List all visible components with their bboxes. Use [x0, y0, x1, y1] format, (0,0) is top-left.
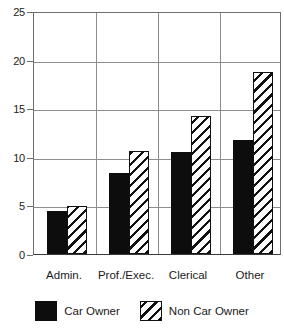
y-tick-label-5: 5	[19, 201, 25, 212]
y-axis: 25 20 15 10 5 0	[0, 0, 33, 333]
legend-label-non-car-owner: Non Car Owner	[169, 304, 249, 318]
bar-other-car-owner	[233, 140, 253, 254]
bar-chart-figure: 25 20 15 10 5 0	[0, 0, 284, 333]
x-tick-label-admin: Admin.	[46, 268, 82, 282]
legend-label-car-owner: Car Owner	[64, 304, 120, 318]
y-tick-label-15: 15	[13, 104, 25, 115]
plot-area	[33, 12, 281, 255]
bar-clerical-non-car-owner	[191, 116, 211, 254]
bar-group-other	[220, 13, 282, 254]
x-tick-label-other: Other	[236, 268, 265, 282]
legend-swatch-car-owner	[35, 301, 57, 321]
bar-prof-exec-car-owner	[109, 173, 129, 254]
y-tick-label-25: 25	[13, 7, 25, 18]
bar-group-clerical	[158, 13, 220, 254]
y-tick-label-10: 10	[13, 152, 25, 163]
y-tick-label-20: 20	[13, 55, 25, 66]
legend-entry-non-car-owner: Non Car Owner	[140, 301, 249, 321]
bar-group-prof-exec	[96, 13, 158, 254]
bar-clerical-car-owner	[171, 152, 191, 254]
legend-entry-car-owner: Car Owner	[35, 301, 120, 321]
y-tick-mark-0	[27, 255, 33, 256]
legend-swatch-non-car-owner	[140, 301, 162, 321]
y-tick-label-0: 0	[19, 250, 25, 261]
bar-other-non-car-owner	[253, 72, 273, 254]
bar-admin-car-owner	[47, 211, 67, 254]
chart-legend: Car Owner Non Car Owner	[0, 298, 284, 324]
bar-prof-exec-non-car-owner	[129, 151, 149, 254]
x-tick-label-prof-exec: Prof./Exec.	[98, 268, 154, 282]
x-tick-label-clerical: Clerical	[169, 268, 207, 282]
bar-admin-non-car-owner	[67, 206, 87, 254]
x-axis: Admin. Prof./Exec. Clerical Other	[33, 268, 281, 286]
bar-group-admin	[34, 13, 96, 254]
